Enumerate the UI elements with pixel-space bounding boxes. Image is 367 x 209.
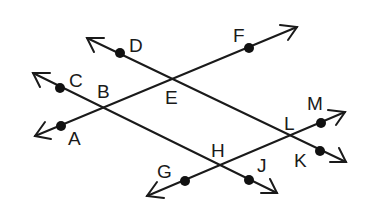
label-g: G	[157, 161, 172, 182]
point-c-dot	[55, 83, 65, 93]
label-j: J	[257, 155, 267, 176]
label-a: A	[68, 128, 81, 149]
label-k: K	[294, 150, 307, 171]
line-gm	[147, 110, 345, 198]
label-d: D	[129, 35, 143, 56]
label-c: C	[69, 70, 83, 91]
label-b: B	[97, 81, 110, 102]
point-f-dot	[244, 43, 254, 53]
label-m: M	[307, 93, 323, 114]
point-d-dot	[115, 48, 125, 58]
label-f: F	[233, 25, 245, 46]
point-g-dot	[180, 176, 190, 186]
label-h: H	[211, 140, 225, 161]
point-a-dot	[56, 121, 66, 131]
point-m-dot	[316, 118, 326, 128]
label-e: E	[165, 87, 178, 108]
geometry-diagram: A B C D E F G H J K L M	[0, 0, 367, 209]
point-k-dot	[315, 146, 325, 156]
label-l: L	[284, 113, 295, 134]
point-j-dot	[244, 175, 254, 185]
